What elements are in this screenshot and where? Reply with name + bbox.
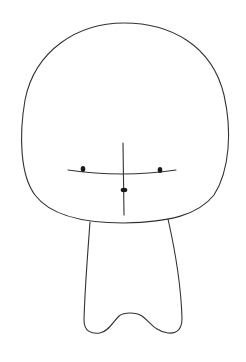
left-eye xyxy=(81,166,86,172)
nose xyxy=(121,188,128,192)
chibi-figure-drawing xyxy=(0,0,246,362)
body-outline xyxy=(84,219,182,333)
head-outline xyxy=(22,23,229,223)
right-eye xyxy=(158,167,163,173)
sketch-canvas xyxy=(0,0,246,362)
face-guide-vertical xyxy=(123,143,124,215)
